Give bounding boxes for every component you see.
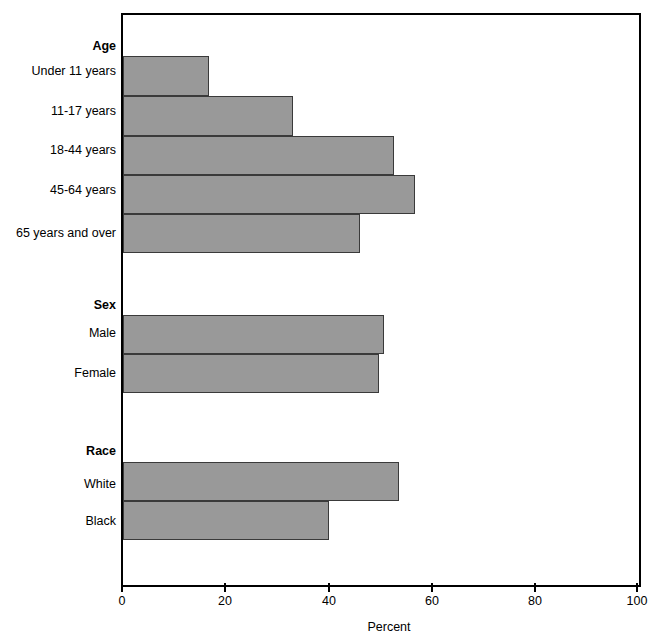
x-tick-label-60: 60 [425,594,439,608]
category-label-black: Black [0,514,116,528]
category-label-female: Female [0,366,116,380]
x-tick-60 [431,583,433,592]
bar-white [123,462,399,501]
bar-black [123,501,329,540]
x-tick-label-40: 40 [322,594,336,608]
bar-under-11-years [123,56,209,96]
x-tick-label-80: 80 [528,594,542,608]
bar-65-years-and-over [123,214,360,253]
group-label-sex: Sex [0,298,116,312]
x-tick-100 [636,583,638,592]
bar-18-44-years [123,136,394,175]
x-tick-label-100: 100 [627,594,648,608]
category-labels: Age Under 11 years 11-17 years 18-44 yea… [0,0,116,642]
bar-45-64-years [123,175,415,214]
x-tick-80 [534,583,536,592]
x-axis-title-text: Percent [367,620,410,634]
category-label-45-64-years: 45-64 years [0,183,116,197]
x-tick-label-0: 0 [119,594,126,608]
category-label-65-years-and-over: 65 years and over [0,226,116,240]
x-tick-label-20: 20 [218,594,232,608]
x-tick-40 [328,583,330,592]
bar-chart: Age Under 11 years 11-17 years 18-44 yea… [0,0,660,642]
category-label-white: White [0,477,116,491]
x-axis-title: Percent [0,620,660,634]
category-label-male: Male [0,326,116,340]
bar-female [123,354,379,393]
category-label-under-11-years: Under 11 years [0,64,116,78]
category-label-11-17-years: 11-17 years [0,104,116,118]
group-label-race: Race [0,444,116,458]
x-tick-20 [224,583,226,592]
x-tick-0 [121,583,123,592]
bars-layer [123,15,639,583]
bar-11-17-years [123,96,293,136]
category-label-18-44-years: 18-44 years [0,143,116,157]
bar-male [123,315,384,354]
group-label-age: Age [0,39,116,53]
